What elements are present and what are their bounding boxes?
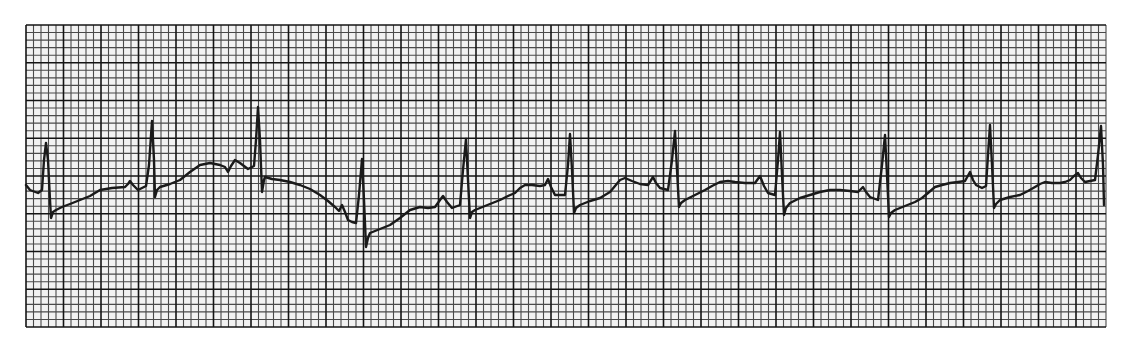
ecg-rhythm-strip [0,0,1130,349]
